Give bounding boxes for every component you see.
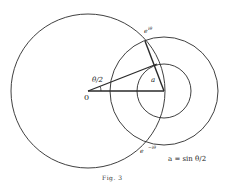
point-bottom-base: e xyxy=(140,147,144,154)
radius-a-label: a xyxy=(151,76,155,84)
figure-3-diagram: 0 θ/2 a e iθ e −iθ a = sin θ/2 Fig. 3 xyxy=(0,0,226,186)
half-angle-label: θ/2 xyxy=(92,76,104,84)
angle-arc xyxy=(100,86,101,91)
point-top-sup: iθ xyxy=(148,26,152,31)
point-bottom-sup: −iθ xyxy=(148,145,156,150)
formula-label: a = sin θ/2 xyxy=(168,155,206,163)
figure-caption: Fig. 3 xyxy=(102,174,123,182)
origin-label: 0 xyxy=(84,93,89,102)
